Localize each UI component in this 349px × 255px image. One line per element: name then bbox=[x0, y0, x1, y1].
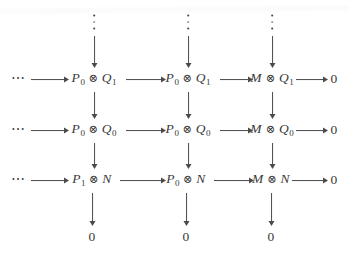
tensor-icon: ⊗ bbox=[88, 123, 98, 135]
arrow-row3-ellipsis-to-c1 bbox=[31, 176, 69, 185]
vdot bbox=[93, 15, 95, 17]
tensor-icon: ⊗ bbox=[182, 123, 192, 135]
node-r1-c2: P0⊗Q1 bbox=[166, 71, 211, 87]
node-r2-c1-right-sub: 0 bbox=[112, 128, 117, 138]
vdot bbox=[271, 15, 273, 17]
tensor-icon: ⊗ bbox=[88, 72, 98, 84]
node-r3-c2-left: P bbox=[166, 171, 174, 186]
scan-artifact-streak bbox=[0, 4, 349, 16]
arrow-row2-c3-to-zero bbox=[296, 126, 328, 135]
vertical-arrow-r1-r2-col-1 bbox=[90, 92, 99, 119]
vertical-arrow-top-col-2 bbox=[184, 36, 193, 68]
node-r1-c3-right-sub: 1 bbox=[289, 77, 294, 87]
node-r3-c1-left: P bbox=[72, 171, 80, 186]
arrow-row3-c2-to-c3 bbox=[214, 176, 254, 185]
vertical-arrow-r1-r2-col-2 bbox=[184, 92, 193, 119]
vertical-arrow-r1-r2-col-3 bbox=[268, 92, 277, 119]
row-1-leading-ellipsis: ⋯ bbox=[11, 72, 27, 86]
arrow-row2-ellipsis-to-c1 bbox=[31, 126, 69, 135]
vertical-arrow-r2-r3-col-2 bbox=[184, 143, 193, 169]
node-r2-c2-right: Q bbox=[196, 121, 206, 136]
node-r1-c3-right: Q bbox=[279, 70, 289, 85]
tensor-icon: ⊗ bbox=[182, 72, 192, 84]
row-2-leading-ellipsis: ⋯ bbox=[11, 123, 27, 137]
arrow-row1-c1-to-c2 bbox=[126, 75, 166, 84]
node-r1-c2-left: P bbox=[166, 70, 174, 85]
node-r2-c2-left-sub: 0 bbox=[174, 128, 179, 138]
vertical-arrow-top-col-3 bbox=[268, 36, 277, 68]
vdot bbox=[271, 21, 273, 23]
arrow-row2-c1-to-c2 bbox=[126, 126, 166, 135]
vertical-arrow-r2-r3-col-3 bbox=[268, 143, 277, 169]
node-r1-c1-left: P bbox=[72, 70, 80, 85]
node-r2-c3: M⊗Q0 bbox=[250, 122, 293, 138]
node-r1-c3-left: M bbox=[250, 70, 261, 85]
tensor-icon: ⊗ bbox=[266, 123, 276, 135]
vdots-column-1 bbox=[93, 15, 95, 30]
node-r1-c2-left-sub: 0 bbox=[174, 77, 179, 87]
vertical-arrow-top-col-1 bbox=[90, 36, 99, 68]
tensor-icon: ⊗ bbox=[183, 173, 193, 185]
vdots-column-3 bbox=[271, 15, 273, 30]
node-r2-c2-right-sub: 0 bbox=[206, 128, 211, 138]
node-r3-c2-left-sub: 0 bbox=[175, 178, 180, 188]
node-r1-c1-right-sub: 1 bbox=[112, 77, 117, 87]
node-r1-c1: P0⊗Q1 bbox=[72, 71, 117, 87]
arrow-row3-c3-to-zero bbox=[292, 176, 328, 185]
tensor-icon: ⊗ bbox=[266, 72, 276, 84]
node-r3-c3: M⊗N bbox=[252, 172, 290, 188]
vertical-arrow-r3-zero-col-3 bbox=[267, 193, 276, 226]
node-r1-c3: M⊗Q1 bbox=[250, 71, 293, 87]
node-r1-zero: 0 bbox=[331, 72, 338, 86]
node-r2-c1: P0⊗Q0 bbox=[72, 122, 117, 138]
vertical-arrow-r3-zero-col-2 bbox=[182, 193, 191, 226]
node-r1-c2-right-sub: 1 bbox=[206, 77, 211, 87]
node-r2-c1-left-sub: 0 bbox=[80, 128, 85, 138]
arrow-row1-ellipsis-to-c1 bbox=[31, 75, 69, 84]
commutative-diagram: ⋯ P0⊗Q1 P0⊗Q1 M⊗Q1 0 ⋯ P0⊗Q0 P0⊗ bbox=[0, 0, 349, 255]
node-r2-c2-left: P bbox=[166, 121, 174, 136]
vdots-column-2 bbox=[187, 15, 189, 30]
node-r3-c3-left: M bbox=[252, 171, 263, 186]
row-3-leading-ellipsis: ⋯ bbox=[11, 173, 27, 187]
node-bottom-zero-col-2: 0 bbox=[183, 230, 190, 244]
node-r2-c3-right-sub: 0 bbox=[289, 128, 294, 138]
node-r1-c2-right: Q bbox=[196, 70, 206, 85]
arrow-row3-c1-to-c2 bbox=[120, 176, 166, 185]
vdot bbox=[93, 21, 95, 23]
node-r3-c1: P1⊗N bbox=[72, 172, 112, 188]
node-bottom-zero-col-1: 0 bbox=[89, 230, 96, 244]
vdot bbox=[187, 21, 189, 23]
node-bottom-zero-col-3: 0 bbox=[268, 230, 275, 244]
node-r2-c1-left: P bbox=[72, 121, 80, 136]
vertical-arrow-r2-r3-col-1 bbox=[90, 143, 99, 169]
node-r2-c3-right: Q bbox=[279, 121, 289, 136]
vdot bbox=[187, 15, 189, 17]
vdot bbox=[187, 28, 189, 30]
node-r3-zero: 0 bbox=[331, 173, 338, 187]
vdot bbox=[271, 28, 273, 30]
node-r3-c2-right: N bbox=[196, 171, 205, 186]
node-r1-c1-right: Q bbox=[102, 70, 112, 85]
node-r2-c3-left: M bbox=[250, 121, 261, 136]
node-r2-c1-right: Q bbox=[102, 121, 112, 136]
node-r1-c1-left-sub: 0 bbox=[80, 77, 85, 87]
tensor-icon: ⊗ bbox=[89, 173, 99, 185]
node-r2-zero: 0 bbox=[331, 123, 338, 137]
arrow-row1-c3-to-zero bbox=[296, 75, 328, 84]
arrow-row2-c2-to-c3 bbox=[220, 126, 253, 135]
tensor-icon: ⊗ bbox=[267, 173, 277, 185]
arrow-row1-c2-to-c3 bbox=[220, 75, 253, 84]
vdot bbox=[93, 28, 95, 30]
node-r2-c2: P0⊗Q0 bbox=[166, 122, 211, 138]
node-r3-c1-left-sub: 1 bbox=[81, 178, 86, 188]
vertical-arrow-r3-zero-col-1 bbox=[88, 193, 97, 226]
node-r3-c2: P0⊗N bbox=[166, 172, 206, 188]
node-r3-c3-right: N bbox=[281, 171, 290, 186]
node-r3-c1-right: N bbox=[102, 171, 111, 186]
